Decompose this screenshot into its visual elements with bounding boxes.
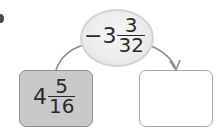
- input-value: 4 5 16: [33, 77, 75, 116]
- operation-fraction: 3 32: [117, 16, 144, 55]
- operation-denominator: 32: [117, 35, 144, 55]
- operation-sign: −: [84, 25, 102, 47]
- input-denominator: 16: [48, 96, 75, 116]
- input-whole: 4: [33, 86, 47, 108]
- operation-value: − 3 3 32: [84, 16, 145, 55]
- input-fraction: 5 16: [48, 77, 75, 116]
- operation-whole: 3: [102, 25, 116, 47]
- input-connector: [56, 45, 83, 70]
- answer-box[interactable]: [139, 70, 213, 127]
